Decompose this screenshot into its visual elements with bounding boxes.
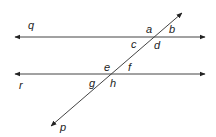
angle-f: f xyxy=(128,61,132,73)
angle-d: d xyxy=(154,39,161,51)
label-q: q xyxy=(28,19,35,31)
label-p: p xyxy=(59,121,66,133)
angle-b: b xyxy=(169,23,175,35)
label-r: r xyxy=(19,79,24,91)
angle-c: c xyxy=(131,38,137,50)
angle-a: a xyxy=(146,23,152,35)
parallel-lines-diagram: q r p a b c d e f g h xyxy=(0,0,216,137)
angle-e: e xyxy=(104,61,110,73)
angle-g: g xyxy=(89,77,96,89)
angle-h: h xyxy=(110,77,116,89)
transversal-p xyxy=(51,13,182,126)
